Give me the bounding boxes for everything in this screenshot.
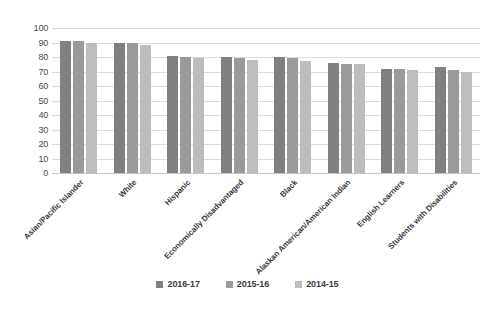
bar-2015-16[interactable] (287, 58, 298, 173)
legend-label: 2014-15 (306, 280, 338, 289)
bar-2016-17[interactable] (221, 57, 232, 173)
legend-label: 2015-16 (237, 280, 269, 289)
bar-2014-15[interactable] (140, 45, 151, 173)
bar-2015-16[interactable] (341, 64, 352, 173)
bar-2014-15[interactable] (354, 64, 365, 173)
bar-2015-16[interactable] (448, 70, 459, 173)
bar-group (373, 28, 427, 173)
bar-2014-15[interactable] (193, 58, 204, 173)
x-axis-category-label: Black (278, 178, 299, 199)
bar-2015-16[interactable] (394, 69, 405, 173)
x-axis-category-label: Alaskan American/American Indian (254, 178, 353, 277)
bar-2014-15[interactable] (247, 60, 258, 173)
axis-baseline (52, 173, 480, 174)
y-axis-tick-label: 80 (20, 53, 48, 62)
bar-2016-17[interactable] (274, 57, 285, 173)
bar-group (427, 28, 481, 173)
bar-2016-17[interactable] (381, 69, 392, 173)
legend-item[interactable]: 2016-17 (156, 280, 199, 289)
bars-layer (52, 28, 480, 173)
bar-chart: 0102030405060708090100 Asian/Pacific Isl… (0, 0, 495, 314)
bar-2015-16[interactable] (73, 41, 84, 173)
y-axis-tick-label: 30 (20, 125, 48, 134)
bar-2016-17[interactable] (167, 56, 178, 173)
bar-2014-15[interactable] (461, 72, 472, 174)
x-axis-category-label: Hispanic (163, 178, 192, 207)
x-axis-category-label: White (117, 178, 138, 199)
bar-group (320, 28, 374, 173)
legend-item[interactable]: 2015-16 (226, 280, 269, 289)
y-axis-tick-label: 90 (20, 38, 48, 47)
bar-2016-17[interactable] (60, 41, 71, 173)
bar-group (213, 28, 267, 173)
bar-2016-17[interactable] (114, 43, 125, 174)
y-axis-tick-label: 0 (20, 169, 48, 178)
bar-2014-15[interactable] (86, 43, 97, 174)
y-axis-tick-label: 40 (20, 111, 48, 120)
bar-2015-16[interactable] (234, 58, 245, 173)
y-axis-tick-label: 10 (20, 154, 48, 163)
bar-group (52, 28, 106, 173)
x-axis-category-label: English Learners (355, 178, 406, 229)
y-axis-tick-label: 60 (20, 82, 48, 91)
y-axis-tick-label: 50 (20, 96, 48, 105)
bar-2015-16[interactable] (180, 57, 191, 173)
bar-2014-15[interactable] (407, 70, 418, 173)
x-axis-category-label: Asian/Pacific Islander (22, 178, 85, 241)
y-axis-tick-label: 70 (20, 67, 48, 76)
legend-swatch-icon (295, 281, 302, 288)
bar-2015-16[interactable] (127, 43, 138, 174)
y-axis: 0102030405060708090100 (20, 22, 48, 174)
bar-group (106, 28, 160, 173)
y-axis-tick-label: 20 (20, 140, 48, 149)
bar-2016-17[interactable] (435, 67, 446, 173)
chart-legend: 2016-172015-162014-15 (0, 280, 495, 289)
legend-label: 2016-17 (167, 280, 199, 289)
legend-swatch-icon (156, 281, 163, 288)
legend-swatch-icon (226, 281, 233, 288)
bar-2014-15[interactable] (300, 61, 311, 173)
bar-group (159, 28, 213, 173)
bar-group (266, 28, 320, 173)
y-axis-tick-label: 100 (20, 24, 48, 33)
bar-2016-17[interactable] (328, 63, 339, 173)
legend-item[interactable]: 2014-15 (295, 280, 338, 289)
plot-area: 0102030405060708090100 Asian/Pacific Isl… (0, 0, 495, 200)
